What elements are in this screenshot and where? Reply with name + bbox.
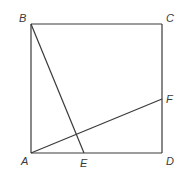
label-d: D: [166, 155, 174, 167]
segment-be: [31, 24, 84, 153]
label-a: A: [20, 155, 28, 167]
label-f: F: [166, 93, 174, 105]
label-c: C: [166, 12, 174, 24]
square-geometry-diagram: A B C D E F: [0, 0, 183, 180]
vertex-labels: A B C D E F: [19, 12, 174, 169]
label-e: E: [80, 157, 88, 169]
segment-af: [31, 99, 162, 153]
label-b: B: [19, 12, 26, 24]
segments: [31, 24, 162, 153]
